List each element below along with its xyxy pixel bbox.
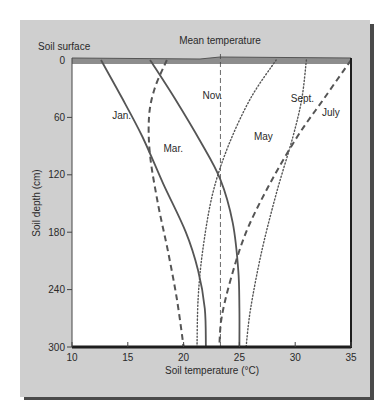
y-tick-label: 240	[48, 284, 65, 295]
y-tick-label: 180	[48, 227, 65, 238]
x-tick-label: 15	[122, 352, 134, 363]
series-label: July	[322, 107, 340, 118]
x-tick-label: 20	[178, 352, 190, 363]
x-tick-label: 10	[66, 352, 78, 363]
y-axis-title: Soil depth (cm)	[31, 169, 42, 236]
y-tick-label: 120	[48, 169, 65, 180]
soil-surface-label: Soil surface	[38, 41, 91, 52]
y-tick-label: 60	[54, 112, 66, 123]
x-axis-title: Soil temperature (°C)	[165, 365, 259, 376]
x-tick-label: 35	[345, 352, 357, 363]
soil-temperature-chart: 101520253035060120180240300 Jan.Mar.Nov.…	[0, 0, 388, 415]
y-tick-label: 300	[48, 342, 65, 353]
series-label: Nov.	[203, 90, 223, 101]
series-label: Jan.	[112, 110, 131, 121]
x-tick-label: 30	[290, 352, 302, 363]
x-tick-label: 25	[234, 352, 246, 363]
mean-temperature-label: Mean temperature	[179, 35, 261, 46]
y-tick-label: 0	[59, 55, 65, 66]
series-label: Mar.	[164, 143, 183, 154]
series-label: May	[254, 131, 273, 142]
series-label: Sept.	[291, 93, 314, 104]
